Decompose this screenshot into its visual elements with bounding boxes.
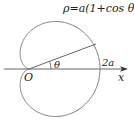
point-2a-label: 2a [102, 58, 114, 68]
x-axis-label: x [118, 72, 124, 83]
cardioid-diagram: ρ=a(1+cos θ) O θ 2a x [0, 0, 134, 129]
equation-label: ρ=a(1+cos θ) [63, 3, 134, 14]
radius-line [29, 44, 96, 69]
origin-label: O [24, 72, 33, 83]
angle-arc [50, 61, 51, 69]
angle-label: θ [54, 60, 60, 70]
